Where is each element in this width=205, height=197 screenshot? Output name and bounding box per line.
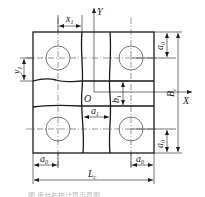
y1-label: y1 xyxy=(11,67,23,75)
a0-bottom-right-label: a0 xyxy=(154,140,166,148)
a0-bottom-right-h-label: a0 xyxy=(136,153,144,165)
a0-top-right-label: a0 xyxy=(154,42,166,50)
figure-caption: 图 承台布桩计算示意图 xyxy=(28,191,100,197)
break-line-vertical-right xyxy=(109,32,110,153)
pile-cap-outline xyxy=(33,32,154,153)
a0-bottom-left-label: a0 xyxy=(40,153,48,165)
y-axis-label: Y xyxy=(97,6,104,17)
pile-cap-diagram: Y X O x1 y1 a0 a0 Bc b1 a1 a0 a0 Lc 图 承台… xyxy=(0,0,205,197)
x1-label: x1 xyxy=(65,13,73,25)
bc-label: Bc xyxy=(165,88,177,97)
a1-label: a1 xyxy=(91,105,99,117)
x-axis-label: X xyxy=(182,95,190,106)
b1-label: b1 xyxy=(110,95,122,103)
lc-label: Lc xyxy=(87,168,97,180)
break-line-horizontal-top xyxy=(33,79,154,82)
origin-label: O xyxy=(84,93,91,104)
